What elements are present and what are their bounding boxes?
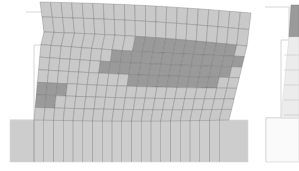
damaged-element bbox=[127, 75, 139, 87]
damaged-element bbox=[119, 62, 131, 74]
mesh-element bbox=[196, 25, 207, 42]
mesh-element bbox=[87, 73, 99, 86]
mesh-element bbox=[83, 18, 94, 34]
mesh-element bbox=[67, 72, 78, 85]
mesh-element bbox=[146, 6, 157, 22]
mesh-element bbox=[125, 20, 136, 36]
mesh-element bbox=[217, 27, 229, 44]
mesh-element bbox=[42, 17, 54, 32]
foundation-outline-right bbox=[266, 118, 299, 162]
mesh-element bbox=[40, 45, 51, 58]
mesh-element bbox=[77, 72, 89, 85]
mesh-element bbox=[124, 5, 135, 21]
mesh-element bbox=[208, 10, 220, 27]
wall-sliver-right bbox=[281, 37, 299, 118]
mesh-element bbox=[100, 49, 112, 62]
mesh-element bbox=[114, 20, 125, 36]
damaged-element bbox=[35, 95, 46, 108]
mesh-element bbox=[166, 23, 177, 40]
mesh-element bbox=[237, 29, 249, 46]
mesh-element bbox=[86, 85, 97, 97]
mesh-element bbox=[52, 17, 64, 33]
mesh-element bbox=[49, 58, 60, 71]
mesh-element bbox=[72, 3, 84, 19]
mesh-element bbox=[59, 59, 70, 72]
damaged-element bbox=[45, 95, 56, 108]
mesh-element bbox=[186, 24, 197, 41]
mesh-element bbox=[82, 3, 94, 19]
mesh-element bbox=[73, 18, 85, 34]
mesh-element bbox=[228, 11, 240, 28]
mesh-element bbox=[124, 98, 136, 110]
mesh-element bbox=[176, 23, 187, 40]
mesh-element bbox=[115, 86, 127, 98]
mesh-element bbox=[227, 28, 239, 45]
mesh-element bbox=[93, 109, 104, 121]
mesh-element bbox=[76, 84, 87, 97]
damaged-element-right bbox=[289, 5, 299, 37]
mesh-element bbox=[146, 21, 156, 37]
mesh-element bbox=[156, 6, 167, 23]
damaged-element bbox=[111, 50, 123, 63]
deformed-mesh-diagram bbox=[0, 0, 299, 171]
damaged-element bbox=[46, 83, 57, 96]
mesh-element bbox=[63, 108, 74, 120]
mesh-element bbox=[57, 71, 68, 84]
mesh-element bbox=[94, 97, 105, 109]
damaged-element bbox=[131, 51, 143, 63]
mesh-element bbox=[61, 3, 73, 19]
mesh-element bbox=[206, 26, 218, 43]
mesh-element bbox=[54, 108, 65, 121]
damaged-element bbox=[121, 51, 133, 63]
mesh-element bbox=[39, 57, 50, 70]
mesh-element bbox=[89, 61, 101, 74]
mesh-element bbox=[218, 10, 230, 27]
mesh-element bbox=[47, 70, 58, 83]
foundation-block bbox=[10, 120, 248, 162]
mesh-element bbox=[51, 2, 63, 17]
mesh-element bbox=[156, 22, 167, 39]
mesh-element bbox=[69, 59, 80, 72]
mesh-element bbox=[114, 4, 125, 20]
mesh-element bbox=[166, 7, 177, 24]
mesh-element bbox=[44, 108, 55, 121]
mesh-element bbox=[177, 7, 188, 24]
mesh-element bbox=[97, 73, 109, 85]
mesh-element bbox=[102, 109, 113, 121]
mesh-element bbox=[104, 97, 116, 109]
mesh-element bbox=[229, 67, 242, 78]
mesh-element bbox=[84, 97, 95, 109]
mesh-element bbox=[106, 86, 118, 98]
mesh-element bbox=[34, 107, 45, 120]
mesh-element bbox=[135, 5, 146, 21]
mesh-element bbox=[80, 48, 92, 61]
mesh-element bbox=[197, 9, 209, 26]
mesh-element bbox=[63, 18, 75, 34]
mesh-element bbox=[70, 47, 82, 60]
mesh-element bbox=[117, 74, 129, 86]
mesh-element bbox=[83, 109, 94, 121]
mesh-element bbox=[79, 60, 91, 73]
mesh-element bbox=[187, 8, 198, 25]
damaged-element bbox=[99, 61, 111, 74]
mesh-element bbox=[90, 48, 102, 61]
mesh-element bbox=[107, 74, 119, 86]
mesh-element bbox=[96, 85, 108, 97]
mesh-element bbox=[74, 96, 85, 108]
damaged-element bbox=[109, 62, 121, 74]
mesh-element bbox=[93, 3, 104, 19]
damaged-element bbox=[232, 56, 245, 67]
damaged-element bbox=[36, 82, 47, 95]
mesh-element bbox=[50, 45, 61, 58]
fem-mesh-figure bbox=[0, 0, 299, 171]
mesh-element bbox=[73, 109, 84, 121]
mesh-element bbox=[66, 84, 77, 97]
mesh-element bbox=[94, 19, 105, 35]
damaged-element bbox=[56, 83, 67, 96]
mesh-element bbox=[239, 12, 251, 29]
mesh-element bbox=[60, 46, 72, 59]
mesh-element bbox=[112, 109, 124, 121]
mesh-element bbox=[104, 19, 115, 35]
mesh-element bbox=[135, 21, 145, 37]
mesh-element bbox=[103, 4, 114, 20]
